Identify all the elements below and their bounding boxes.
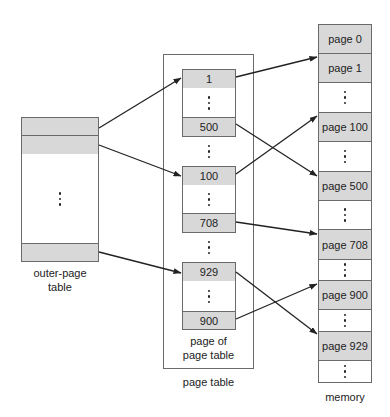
arrow-outer2-to-pt100 — [99, 145, 181, 176]
arrow-pt500-to-page500 — [236, 124, 317, 176]
arrow-pt900-to-page900 — [236, 284, 317, 319]
arrow-pt1-to-page1 — [236, 57, 317, 77]
arrow-outerlast-to-pt929 — [99, 252, 181, 273]
arrows-layer — [0, 0, 390, 417]
arrow-outer1-to-pt1 — [99, 78, 181, 128]
arrow-pt708-to-page708 — [236, 222, 317, 234]
arrow-pt929-to-page929 — [236, 272, 317, 334]
arrow-pt100-to-page100 — [236, 116, 317, 174]
